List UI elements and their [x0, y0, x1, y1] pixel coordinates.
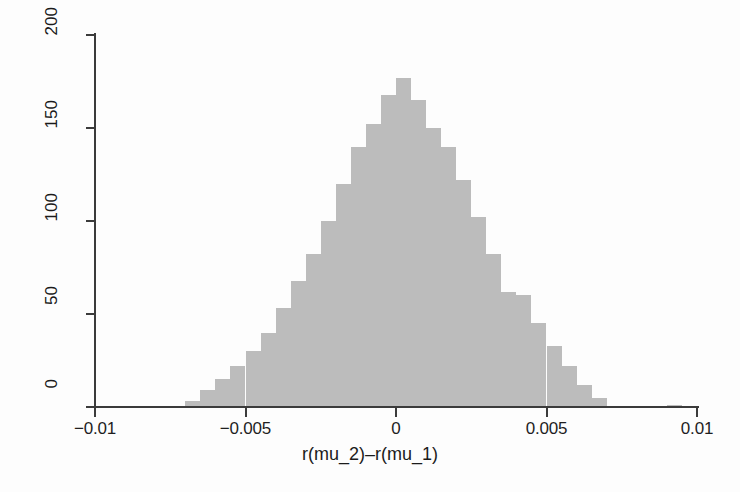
- histogram-bar: [306, 254, 321, 407]
- x-tick-label: 0.005: [526, 419, 568, 439]
- histogram-bar: [366, 124, 381, 407]
- histogram-bar: [531, 323, 546, 407]
- x-axis-title: r(mu_2)–r(mu_1): [0, 444, 740, 465]
- y-tick-label-text: 0: [42, 379, 62, 435]
- histogram-bar: [261, 333, 276, 407]
- histogram-bar: [516, 295, 531, 407]
- x-tick: [395, 408, 397, 417]
- x-tick-label: −0.005: [220, 419, 271, 439]
- histogram-bar: [456, 180, 471, 407]
- y-tick-label-text: 50: [42, 286, 62, 342]
- histogram-bar: [426, 128, 441, 407]
- y-tick-label: 0: [24, 397, 80, 417]
- histogram-bar: [577, 385, 592, 407]
- histogram-bar: [501, 292, 516, 407]
- y-tick-label: 50: [24, 304, 80, 324]
- histogram-bar: [351, 147, 366, 407]
- histogram-bar: [471, 217, 486, 407]
- histogram-bar: [396, 78, 411, 407]
- histogram-bar: [215, 379, 230, 407]
- x-tick-label: 0: [391, 419, 400, 439]
- x-tick: [696, 408, 698, 417]
- histogram-bar: [441, 147, 456, 407]
- histogram-bar: [547, 346, 562, 407]
- x-tick: [245, 408, 247, 417]
- y-axis-title: Density: [6, 170, 40, 270]
- x-tick: [546, 408, 548, 417]
- histogram-bar: [276, 308, 291, 407]
- x-tick: [94, 408, 96, 417]
- y-tick-label: 200: [24, 25, 80, 45]
- plot-area: [95, 35, 697, 407]
- histogram-figure: −0.01−0.00500.0050.01 050100150200 r(mu_…: [0, 0, 740, 492]
- y-tick-label-text: 100: [42, 193, 62, 249]
- histogram-bar: [321, 221, 336, 407]
- x-axis-line: [95, 406, 699, 408]
- histogram-bar: [486, 254, 501, 407]
- y-tick-label-text: 150: [42, 100, 62, 156]
- x-tick-label: −0.01: [74, 419, 116, 439]
- y-tick: [86, 406, 95, 408]
- y-tick: [86, 127, 95, 129]
- y-tick-label-text: 200: [42, 7, 62, 63]
- histogram-bar: [230, 366, 245, 407]
- histogram-bar: [411, 100, 426, 407]
- x-tick-label: 0.01: [681, 419, 713, 439]
- histogram-bar: [562, 366, 577, 407]
- histogram-bar: [336, 184, 351, 407]
- histogram-bar: [200, 390, 215, 407]
- y-tick: [86, 220, 95, 222]
- histogram-bars: [95, 35, 697, 407]
- histogram-bar: [246, 351, 261, 407]
- histogram-bar: [381, 95, 396, 407]
- y-tick: [86, 313, 95, 315]
- y-tick: [86, 34, 95, 36]
- histogram-bar: [291, 281, 306, 407]
- y-axis-title-text: Density: [0, 103, 7, 203]
- y-tick-label: 150: [24, 118, 80, 138]
